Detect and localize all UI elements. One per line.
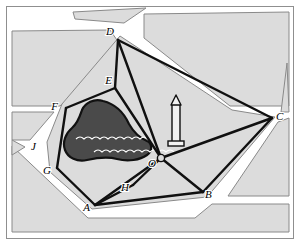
point-label-G: G [43, 164, 51, 176]
map-canvas: A B C D E F G H J O [0, 0, 300, 245]
point-label-C: C [276, 110, 284, 122]
point-label-A: A [82, 201, 90, 213]
point-label-H: H [120, 181, 130, 193]
point-label-O: O [148, 157, 156, 169]
point-label-F: F [50, 100, 58, 112]
point-label-B: B [205, 188, 212, 200]
point-label-E: E [104, 74, 112, 86]
station-marker-O [157, 154, 164, 161]
map-figure: A B C D E F G H J O [0, 0, 300, 245]
point-label-D: D [105, 25, 114, 37]
monument-shaft [172, 104, 180, 142]
monument-base [168, 141, 184, 146]
